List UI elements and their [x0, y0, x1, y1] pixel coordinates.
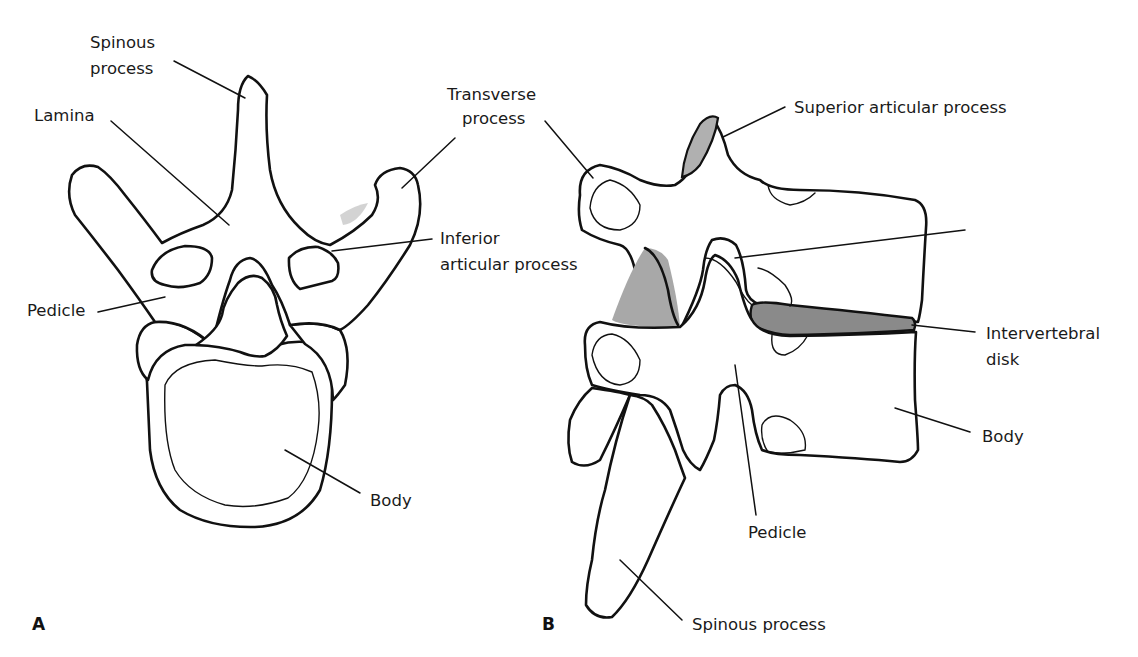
- leader-transverse-a: [402, 138, 455, 188]
- label-intervertebral-2: disk: [986, 350, 1020, 369]
- label-spinous-process-a-2: process: [90, 59, 153, 78]
- label-lamina: Lamina: [34, 106, 95, 125]
- label-superior-articular: Superior articular process: [794, 98, 1007, 117]
- label-transverse-process-a-1: Transverse: [446, 85, 536, 104]
- leader-transverse-b: [545, 121, 593, 178]
- label-transverse-process-a-2: process: [462, 109, 525, 128]
- leader-superior-articular: [723, 107, 785, 137]
- label-body-a: Body: [370, 491, 412, 510]
- panel-letter-a: A: [32, 614, 46, 634]
- vertebra-anatomy-figure: Spinous process Lamina Transverse proces…: [0, 0, 1138, 657]
- panel-a-superior-view: Spinous process Lamina Transverse proces…: [27, 33, 578, 634]
- panel-b-lateral-view: Superior articular process Intervertebra…: [542, 98, 1100, 634]
- label-inferior-articular-1: Inferior: [440, 229, 500, 248]
- label-spinous-process-b: Spinous process: [692, 615, 826, 634]
- label-spinous-process-a-1: Spinous: [90, 33, 155, 52]
- panel-letter-b: B: [542, 614, 555, 634]
- leader-spinous-a: [174, 61, 245, 98]
- label-pedicle-b: Pedicle: [748, 523, 806, 542]
- label-intervertebral-1: Intervertebral: [986, 324, 1100, 343]
- label-body-b: Body: [982, 427, 1024, 446]
- label-pedicle-a: Pedicle: [27, 301, 85, 320]
- vertebral-body-a: [146, 340, 332, 527]
- leader-intervertebral: [912, 325, 975, 332]
- label-inferior-articular-2: articular process: [440, 255, 578, 274]
